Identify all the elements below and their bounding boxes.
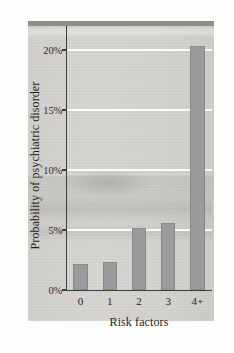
bar [73, 264, 88, 290]
y-axis-tick-label: 15% [43, 105, 62, 116]
bar [103, 262, 118, 290]
y-axis-tick-label: 20% [43, 45, 62, 56]
x-axis-tick-label: 1 [107, 295, 113, 307]
bar-chart: 0%5%10%15%20% Risk factors Probability o… [0, 0, 234, 353]
y-axis-title: Probability of psychiatric disorder [28, 51, 43, 281]
y-axis-tick-label: 5% [48, 225, 62, 236]
bar [190, 46, 205, 290]
x-axis-tick-label: 3 [165, 295, 171, 307]
x-axis-tick-label: 0 [78, 295, 84, 307]
figure-container: 0%5%10%15%20% Risk factors Probability o… [0, 0, 234, 353]
x-axis-title: Risk factors [66, 315, 212, 330]
x-axis-line [66, 290, 212, 291]
plot-area [66, 26, 212, 290]
y-axis-line [66, 26, 67, 291]
y-axis-tick-label: 10% [43, 165, 62, 176]
bar [161, 223, 176, 290]
bar [132, 228, 147, 290]
y-axis-tick-label: 0% [48, 285, 62, 296]
x-axis-tick-label: 2 [136, 295, 142, 307]
x-axis-tick-label: 4+ [192, 295, 204, 307]
